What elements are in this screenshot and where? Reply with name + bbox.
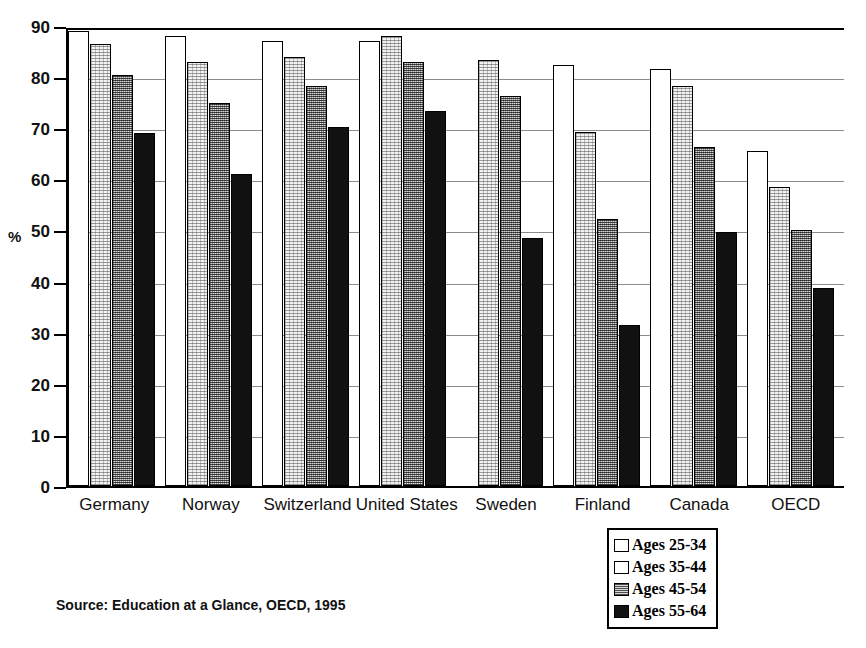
x-axis-label: Finland: [554, 492, 651, 522]
y-axis-title: %: [8, 228, 21, 245]
y-tick-mark: [54, 436, 66, 438]
bar[interactable]: [813, 288, 834, 486]
y-tick-label: 0: [41, 478, 50, 498]
x-axis-label: Canada: [651, 492, 748, 522]
x-axis-label: Norway: [163, 492, 260, 522]
x-axis-label: OECD: [747, 492, 844, 522]
y-tick-mark: [54, 231, 66, 233]
y-tick-mark: [54, 129, 66, 131]
y-tick-mark: [54, 78, 66, 80]
bar[interactable]: [522, 238, 543, 486]
y-tick-label: 70: [31, 120, 50, 140]
y-tick-label: 80: [31, 69, 50, 89]
chart-root: 0102030405060708090 % GermanyNorwaySwitz…: [0, 0, 866, 648]
legend-item[interactable]: Ages 55-64: [614, 600, 706, 622]
y-tick-label: 20: [31, 376, 50, 396]
bar[interactable]: [209, 103, 230, 486]
bar[interactable]: [231, 174, 252, 486]
legend-swatch-icon: [614, 539, 629, 552]
bar[interactable]: [575, 132, 596, 486]
legend-swatch-icon: [614, 605, 629, 618]
x-axis-label: Germany: [66, 492, 163, 522]
y-tick-label: 10: [31, 427, 50, 447]
bar[interactable]: [769, 187, 790, 486]
bar[interactable]: [672, 86, 693, 486]
bar[interactable]: [359, 41, 380, 486]
legend-label: Ages 45-54: [632, 580, 706, 598]
y-tick-label: 50: [31, 222, 50, 242]
bar-cluster: [650, 28, 747, 486]
bar[interactable]: [716, 232, 737, 486]
bar[interactable]: [500, 96, 521, 486]
bar[interactable]: [619, 325, 640, 486]
y-tick-mark: [54, 334, 66, 336]
legend-swatch-icon: [614, 561, 629, 574]
y-tick-mark: [54, 385, 66, 387]
y-tick-mark: [54, 487, 66, 489]
y-tick-label: 30: [31, 325, 50, 345]
bar[interactable]: [306, 86, 327, 486]
legend-label: Ages 55-64: [632, 602, 706, 620]
legend-item[interactable]: Ages 35-44: [614, 556, 706, 578]
bar-cluster: [359, 28, 456, 486]
legend-label: Ages 35-44: [632, 558, 706, 576]
source-note: Source: Education at a Glance, OECD, 199…: [56, 597, 345, 613]
plot-area: [66, 28, 844, 488]
y-tick-label: 90: [31, 18, 50, 38]
legend-label: Ages 25-34: [632, 536, 706, 554]
legend: Ages 25-34Ages 35-44Ages 45-54Ages 55-64: [607, 528, 718, 629]
legend-item[interactable]: Ages 25-34: [614, 534, 706, 556]
bar[interactable]: [134, 133, 155, 486]
bar-cluster: [68, 28, 165, 486]
x-axis-label: Switzerland: [259, 492, 356, 522]
bar[interactable]: [112, 75, 133, 486]
bar[interactable]: [165, 36, 186, 486]
bar[interactable]: [478, 60, 499, 486]
bar[interactable]: [403, 62, 424, 486]
bar[interactable]: [90, 44, 111, 486]
bar[interactable]: [262, 41, 283, 486]
x-axis-label: United States: [356, 492, 458, 522]
bar-clusters: [68, 28, 844, 486]
legend-swatch-icon: [614, 583, 629, 596]
bar[interactable]: [425, 111, 446, 486]
x-axis-labels: GermanyNorwaySwitzerlandUnited StatesSwe…: [66, 492, 844, 522]
bar-cluster: [553, 28, 650, 486]
bar[interactable]: [791, 230, 812, 486]
y-tick-mark: [54, 27, 66, 29]
bar-cluster: [747, 28, 844, 486]
bar[interactable]: [650, 69, 671, 486]
bar[interactable]: [68, 31, 89, 486]
legend-item[interactable]: Ages 45-54: [614, 578, 706, 600]
bar[interactable]: [597, 219, 618, 486]
y-tick-label: 60: [31, 171, 50, 191]
bar[interactable]: [284, 57, 305, 486]
x-axis-label: Sweden: [458, 492, 555, 522]
y-tick-mark: [54, 180, 66, 182]
y-axis-ticks: 0102030405060708090: [0, 28, 66, 488]
bar[interactable]: [694, 147, 715, 486]
bar[interactable]: [381, 36, 402, 486]
y-tick-label: 40: [31, 274, 50, 294]
bar[interactable]: [747, 151, 768, 486]
bar[interactable]: [187, 62, 208, 486]
y-tick-mark: [54, 283, 66, 285]
bar-cluster: [456, 28, 553, 486]
bar[interactable]: [328, 127, 349, 486]
bar-cluster: [165, 28, 262, 486]
bar[interactable]: [553, 65, 574, 486]
bar-cluster: [262, 28, 359, 486]
